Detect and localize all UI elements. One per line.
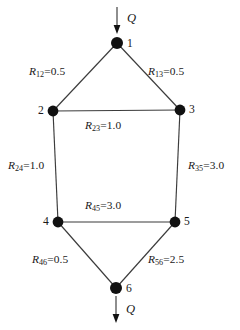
node-label-1: 1	[127, 38, 133, 50]
edge-value-R46: 0.5	[54, 253, 69, 265]
node-label-2: 2	[38, 105, 44, 117]
node-label-3: 3	[189, 104, 195, 116]
edge-label-R56: R56=2.5	[148, 254, 184, 267]
edge-subscript-R12: 12	[36, 70, 44, 79]
edge-value-R24: 1.0	[30, 159, 45, 171]
node-2[interactable]	[48, 106, 59, 117]
node-label-6: 6	[126, 283, 132, 295]
edge-subscript-R46: 46	[39, 258, 47, 267]
edge-subscript-R45: 45	[92, 204, 100, 213]
edge-label-R24: R24=1.0	[8, 160, 44, 173]
edge-label-R35: R35=3.0	[188, 160, 224, 173]
edge-symbol-R24: R	[8, 159, 15, 171]
edge-symbol-R13: R	[148, 65, 155, 77]
node-4[interactable]	[53, 217, 64, 228]
edge-3-5	[175, 110, 180, 222]
edge-2-4	[53, 111, 58, 222]
edge-value-R45: 3.0	[107, 199, 122, 211]
edge-subscript-R23: 23	[92, 124, 100, 133]
node-1[interactable]	[111, 37, 123, 49]
edge-symbol-R12: R	[29, 65, 36, 77]
edge-value-R23: 1.0	[107, 119, 122, 131]
edge-subscript-R24: 24	[15, 164, 23, 173]
node-5[interactable]	[170, 217, 181, 228]
edge-symbol-R35: R	[188, 159, 195, 171]
edge-value-R12: 0.5	[51, 65, 66, 77]
network-diagram-figure: Q Q 1 2 3 4 5 6 R12=0.5 R13=0.5 R23=1.0 …	[0, 0, 240, 330]
edge-symbol-R46: R	[32, 253, 39, 265]
edge-symbol-R56: R	[148, 253, 155, 265]
edge-label-R13: R13=0.5	[148, 66, 184, 79]
inlet-flow-arrow-icon	[114, 7, 121, 34]
edge-label-R12: R12=0.5	[29, 66, 65, 79]
edge-value-R35: 3.0	[210, 159, 225, 171]
node-6[interactable]	[110, 282, 122, 294]
edge-label-R45: R45=3.0	[85, 200, 121, 213]
edge-2-3	[53, 110, 180, 111]
edge-symbol-R23: R	[85, 119, 92, 131]
edge-value-R13: 0.5	[170, 65, 185, 77]
outlet-flow-label: Q	[126, 303, 135, 316]
outlet-flow-arrow-icon	[113, 296, 120, 323]
inlet-flow-label: Q	[127, 12, 136, 25]
edge-value-R56: 2.5	[170, 253, 185, 265]
edge-subscript-R13: 13	[155, 70, 163, 79]
node-3[interactable]	[175, 105, 186, 116]
node-label-5: 5	[184, 216, 190, 228]
edge-subscript-R56: 56	[155, 258, 163, 267]
edge-symbol-R45: R	[85, 199, 92, 211]
node-label-4: 4	[43, 216, 49, 228]
edge-label-R46: R46=0.5	[32, 254, 68, 267]
edge-label-R23: R23=1.0	[85, 120, 121, 133]
edge-subscript-R35: 35	[195, 164, 203, 173]
